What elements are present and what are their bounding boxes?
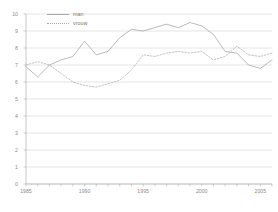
y-tick-label: 2: [4, 147, 18, 153]
gridlines: [24, 14, 273, 184]
x-tick-label: 1985: [13, 188, 39, 194]
y-tick-label: 5: [4, 96, 18, 102]
y-tick-label: 0: [4, 181, 18, 187]
x-axis-ticks: [26, 184, 272, 187]
series-line-vrouw: [26, 46, 272, 87]
legend-label-vrouw: vrouw: [73, 19, 87, 28]
line-chart: 012345678910 19851990199520002005 man vr…: [0, 0, 278, 212]
y-tick-label: 10: [4, 11, 18, 17]
y-tick-label: 6: [4, 79, 18, 85]
legend-swatch-vrouw-icon: [47, 23, 69, 24]
y-tick-label: 1: [4, 164, 18, 170]
y-tick-label: 9: [4, 28, 18, 34]
legend-item-vrouw: vrouw: [47, 19, 107, 28]
x-tick-label: 2005: [247, 188, 273, 194]
x-tick-label: 1990: [72, 188, 98, 194]
legend-label-man: man: [73, 10, 84, 19]
y-tick-label: 8: [4, 45, 18, 51]
chart-legend: man vrouw: [47, 10, 107, 28]
legend-item-man: man: [47, 10, 107, 19]
y-tick-label: 4: [4, 113, 18, 119]
y-tick-label: 3: [4, 130, 18, 136]
legend-swatch-man-icon: [47, 14, 69, 15]
chart-plot-area: [0, 0, 278, 212]
series-line-man: [26, 23, 272, 77]
x-tick-label: 2000: [189, 188, 215, 194]
x-tick-label: 1995: [130, 188, 156, 194]
y-tick-label: 7: [4, 62, 18, 68]
